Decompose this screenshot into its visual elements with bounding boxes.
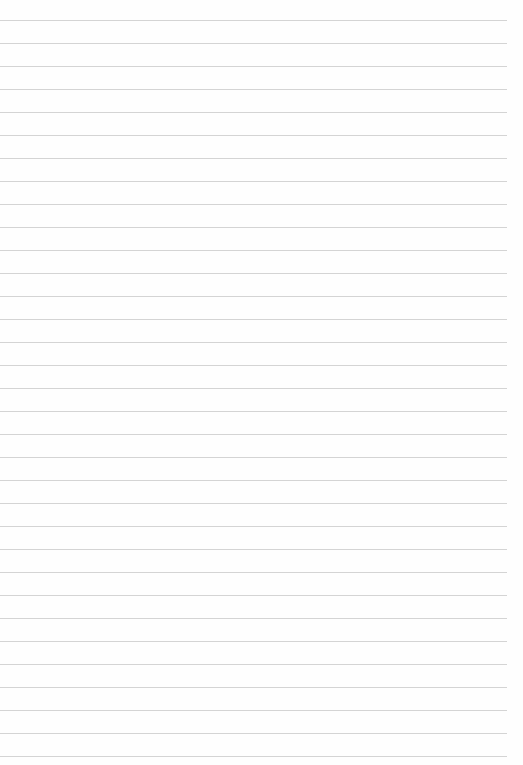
ruled-line bbox=[0, 342, 507, 343]
ruled-line bbox=[0, 66, 507, 67]
ruled-line bbox=[0, 411, 507, 412]
ruled-line bbox=[0, 227, 507, 228]
ruled-line bbox=[0, 204, 507, 205]
ruled-line bbox=[0, 503, 507, 504]
ruled-line bbox=[0, 457, 507, 458]
ruled-line bbox=[0, 756, 507, 757]
ruled-line bbox=[0, 526, 507, 527]
ruled-line bbox=[0, 733, 507, 734]
lined-paper-sheet bbox=[0, 0, 523, 765]
ruled-line bbox=[0, 595, 507, 596]
ruled-line bbox=[0, 43, 507, 44]
ruled-line bbox=[0, 296, 507, 297]
ruled-line bbox=[0, 664, 507, 665]
ruled-line bbox=[0, 135, 507, 136]
ruled-line bbox=[0, 20, 507, 21]
ruled-line bbox=[0, 572, 507, 573]
ruled-line bbox=[0, 250, 507, 251]
ruled-line bbox=[0, 687, 507, 688]
ruled-line bbox=[0, 89, 507, 90]
ruled-line bbox=[0, 158, 507, 159]
ruled-line bbox=[0, 319, 507, 320]
ruled-line bbox=[0, 273, 507, 274]
ruled-line bbox=[0, 710, 507, 711]
ruled-line bbox=[0, 549, 507, 550]
ruled-line bbox=[0, 434, 507, 435]
ruled-line bbox=[0, 618, 507, 619]
ruled-line bbox=[0, 112, 507, 113]
ruled-line bbox=[0, 365, 507, 366]
ruled-line bbox=[0, 480, 507, 481]
ruled-line bbox=[0, 388, 507, 389]
ruled-line bbox=[0, 641, 507, 642]
ruled-line bbox=[0, 181, 507, 182]
